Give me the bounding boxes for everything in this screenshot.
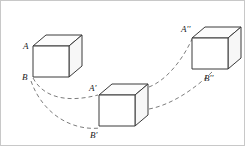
vertex-label-b-dprime-mark: '': [210, 73, 215, 83]
cube-front-face: [192, 38, 228, 69]
trajectory-upper-a-prime: [149, 39, 192, 87]
vertex-label-b-text: B: [22, 72, 28, 82]
cube-front-face: [99, 95, 135, 126]
vertex-label-a-prime: A': [88, 83, 98, 93]
vertex-label-a-text: A: [22, 41, 29, 51]
figure-canvas: A B A' B' A'' B'': [1, 1, 245, 146]
vertex-label-b-dprime: B'': [204, 73, 214, 83]
vertex-label-a: A: [22, 41, 29, 51]
vertex-label-a-prime-mark: ': [95, 83, 98, 93]
vertex-label-b-prime: B': [90, 130, 99, 140]
vertex-label-b: B: [22, 72, 28, 82]
vertex-label-a-dprime: A'': [180, 24, 191, 34]
cube-position-2: [99, 84, 148, 126]
cube-front-face: [33, 46, 69, 77]
cube-position-3: [192, 27, 241, 69]
cube-position-1: [33, 35, 82, 77]
vertex-label-a-dprime-mark: '': [187, 24, 192, 34]
vertex-label-b-prime-mark: ': [96, 130, 99, 140]
cube-trajectory-figure: A B A' B' A'' B'': [0, 0, 245, 146]
